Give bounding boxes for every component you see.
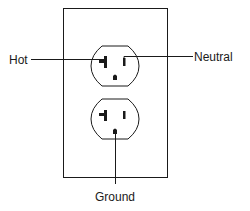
lower-neutral-slot: [123, 111, 126, 119]
ground-label: Ground: [95, 190, 135, 204]
upper-ground-hole: [113, 75, 117, 81]
hot-label: Hot: [9, 53, 28, 67]
upper-receptacle: [91, 46, 139, 86]
neutral-label: Neutral: [194, 50, 233, 64]
outlet-diagram: Hot Neutral Ground: [0, 0, 250, 211]
